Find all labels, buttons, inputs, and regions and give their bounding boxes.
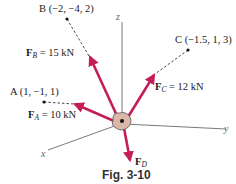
x-axis bbox=[48, 124, 120, 150]
figure-caption: Fig. 3-10 bbox=[102, 169, 151, 181]
ring-center bbox=[120, 119, 124, 123]
force-a-label: FA = 10 kN bbox=[28, 110, 76, 122]
point-b-label: B (−2, −4, 2) bbox=[39, 4, 94, 15]
dashed-line-c bbox=[155, 50, 188, 74]
force-a-value: = 10 kN bbox=[39, 109, 76, 120]
point-b-marker bbox=[65, 17, 68, 20]
force-c-arrow bbox=[128, 75, 154, 117]
force-b-label: FB = 15 kN bbox=[26, 48, 74, 60]
x-axis-label: x bbox=[41, 149, 45, 159]
y-axis bbox=[124, 124, 226, 129]
point-a-marker bbox=[42, 100, 45, 103]
point-c-marker bbox=[186, 48, 189, 51]
force-c-value: = 12 kN bbox=[166, 81, 203, 92]
z-axis-label: z bbox=[116, 12, 120, 22]
force-d-label: FD bbox=[135, 157, 147, 169]
force-c-label: FC = 12 kN bbox=[155, 82, 204, 94]
point-a-label: A (1, −1, 1) bbox=[10, 87, 59, 98]
force-b-value: = 15 kN bbox=[37, 47, 74, 58]
force-b-arrow bbox=[90, 57, 118, 118]
point-c-label: C (−1.5, 1, 3) bbox=[175, 35, 232, 46]
dashed-line-a bbox=[44, 102, 74, 104]
y-axis-label: y bbox=[224, 124, 228, 134]
force-d-arrow bbox=[124, 128, 130, 160]
force-a-arrow bbox=[75, 104, 114, 121]
